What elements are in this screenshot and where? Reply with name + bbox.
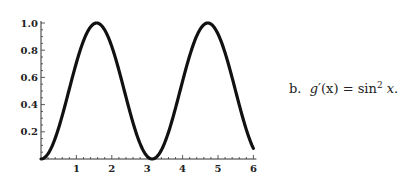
caption-end: . <box>394 81 398 96</box>
x-tick-label: 1 <box>73 163 80 174</box>
caption-rhs-fn: sin <box>358 81 377 96</box>
y-tick-label: 1.0 <box>21 18 38 29</box>
y-tick-label: 0.8 <box>21 45 38 56</box>
y-tick-label: 0.4 <box>21 99 38 110</box>
y-tick-label: 0.6 <box>21 72 38 83</box>
function-curve <box>41 23 253 159</box>
figure-caption: b. g′(x) = sin2 x. <box>289 80 398 96</box>
caption-fn-name: g <box>310 81 318 96</box>
caption-rhs-var: x <box>387 81 394 96</box>
x-tick-label: 6 <box>250 163 257 174</box>
sin-squared-plot: 1234560.20.40.60.81.0 <box>0 0 270 179</box>
x-tick-label: 2 <box>108 163 115 174</box>
caption-exponent: 2 <box>377 80 383 90</box>
caption-arg: (x) <box>321 81 338 96</box>
x-tick-label: 3 <box>144 163 151 174</box>
x-tick-label: 4 <box>179 163 186 174</box>
caption-label: b. <box>289 81 301 96</box>
x-tick-label: 5 <box>215 163 222 174</box>
caption-equals: = <box>339 81 358 96</box>
y-tick-label: 0.2 <box>21 126 38 137</box>
